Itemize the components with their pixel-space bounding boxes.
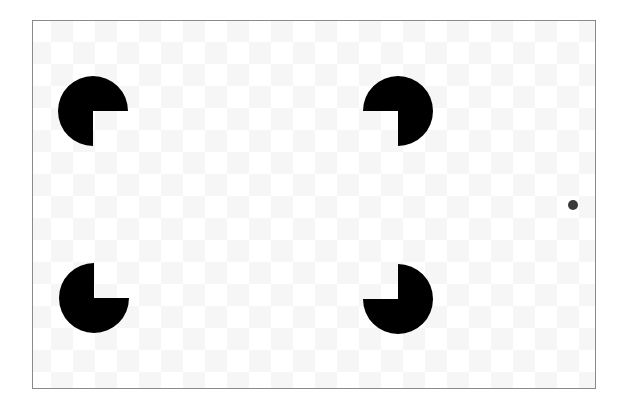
- pacman-inducer-bottom-left: [59, 263, 129, 333]
- fixation-dot: [568, 200, 578, 210]
- pacman-inducers: [58, 76, 433, 334]
- kanizsa-figure: [0, 0, 625, 414]
- pacman-inducer-top-left: [58, 76, 128, 146]
- pacman-inducer-top-right: [363, 76, 433, 146]
- pacman-inducer-bottom-right: [363, 264, 433, 334]
- canvas: [0, 0, 625, 414]
